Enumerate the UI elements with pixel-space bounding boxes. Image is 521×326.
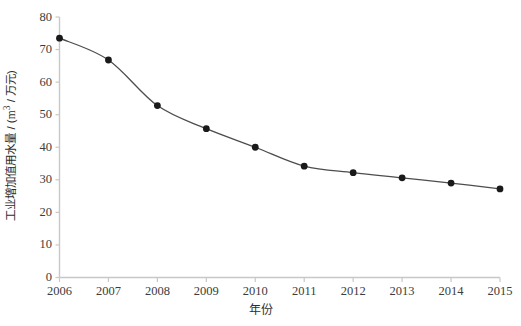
- x-axis-title: 年份: [0, 300, 521, 317]
- x-axis-tick-label: 2013: [378, 285, 426, 298]
- x-axis-tick-labels: 2006200720082009201020112012201320142015: [0, 0, 521, 326]
- x-axis-tick-label: 2014: [427, 285, 475, 298]
- x-axis-tick-label: 2008: [133, 285, 181, 298]
- x-axis-tick-label: 2010: [231, 285, 279, 298]
- x-axis-tick-label: 2007: [84, 285, 132, 298]
- chart-container: 工业增加值用水量 / (m3 / 万元) 01020304050607080 2…: [0, 0, 521, 326]
- x-axis-tick-label: 2006: [36, 285, 84, 298]
- x-axis-tick-label: 2009: [182, 285, 230, 298]
- x-axis-tick-label: 2015: [476, 285, 521, 298]
- x-axis-tick-label: 2011: [280, 285, 328, 298]
- x-axis-tick-label: 2012: [329, 285, 377, 298]
